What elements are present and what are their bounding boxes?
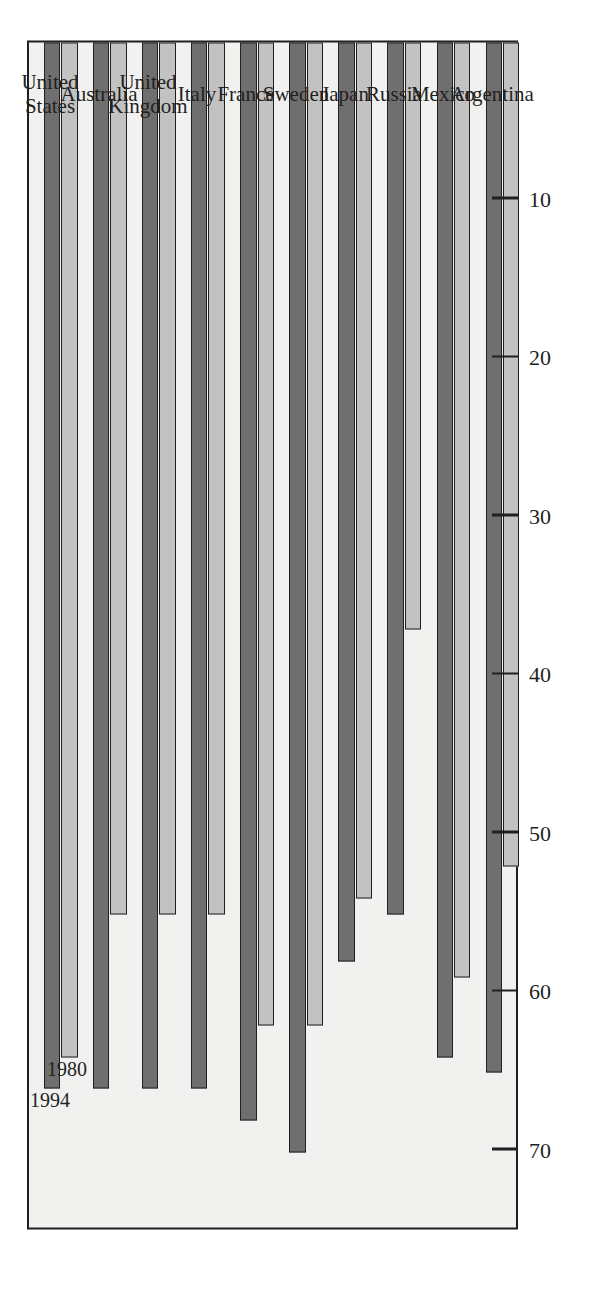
bar-chart-figure: Services as percent of GDP 7060504030201… bbox=[0, 0, 596, 1297]
series-label-1980: 1980 bbox=[47, 1057, 87, 1080]
series-label-1994: 1994 bbox=[30, 1089, 70, 1112]
rotated-figure-wrapper: Services as percent of GDP 7060504030201… bbox=[0, 0, 596, 1297]
category-label: Argentina bbox=[432, 82, 552, 106]
category-axis-labels: United StatesAustraliaUnited KingdomItal… bbox=[0, 40, 596, 1229]
